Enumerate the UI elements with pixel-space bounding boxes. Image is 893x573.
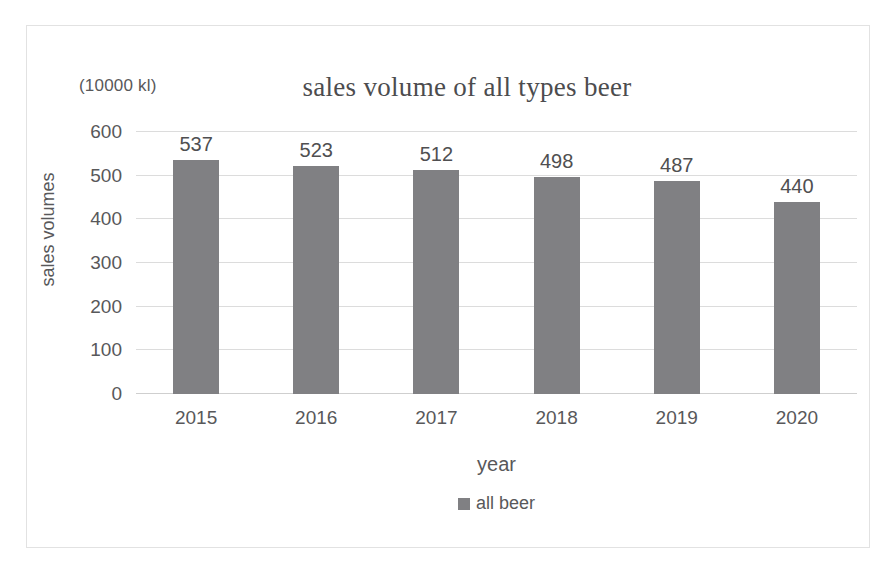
y-tick-label-0: 0 <box>62 383 122 405</box>
chart-legend: all beer <box>136 493 857 514</box>
x-axis-tick-labels: 201520162017201820192020 <box>136 407 857 435</box>
chart-figure: (10000 kl) sales volume of all types bee… <box>26 25 870 548</box>
plot-area: 537523512498487440 <box>136 132 857 394</box>
bar-value-label: 487 <box>626 154 728 177</box>
gridline-100 <box>136 349 857 350</box>
bar[interactable] <box>534 177 580 394</box>
bar[interactable] <box>293 166 339 394</box>
x-axis-title: year <box>136 453 857 476</box>
bar-group[interactable]: 512 <box>413 132 459 394</box>
y-tick-label-500: 500 <box>62 165 122 187</box>
legend-label-all-beer: all beer <box>476 493 535 514</box>
bar-group[interactable]: 440 <box>774 132 820 394</box>
x-tick-label-2017: 2017 <box>415 407 457 429</box>
y-axis-tick-labels: 6005004003002001000 <box>50 132 122 394</box>
bar-value-label: 523 <box>265 139 367 162</box>
bar[interactable] <box>413 170 459 394</box>
y-tick-label-600: 600 <box>62 121 122 143</box>
bar-group[interactable]: 523 <box>293 132 339 394</box>
bar-value-label: 512 <box>385 143 487 166</box>
y-tick-label-100: 100 <box>62 339 122 361</box>
x-tick-label-2018: 2018 <box>535 407 577 429</box>
bar-value-label: 537 <box>145 133 247 156</box>
y-tick-label-200: 200 <box>62 296 122 318</box>
bar[interactable] <box>173 160 219 394</box>
y-tick-label-300: 300 <box>62 252 122 274</box>
x-tick-label-2016: 2016 <box>295 407 337 429</box>
y-tick-label-400: 400 <box>62 208 122 230</box>
gridline-400 <box>136 218 857 219</box>
gridline-0 <box>136 393 857 394</box>
gridline-200 <box>136 306 857 307</box>
bar-value-label: 440 <box>746 175 848 198</box>
bar-group[interactable]: 498 <box>534 132 580 394</box>
bar-value-label: 498 <box>506 150 608 173</box>
x-tick-label-2020: 2020 <box>776 407 818 429</box>
chart-title: sales volume of all types beer <box>207 72 727 103</box>
y-axis-unit-label: (10000 kl) <box>79 76 157 96</box>
legend-swatch-all-beer <box>458 498 470 510</box>
gridline-300 <box>136 262 857 263</box>
x-tick-label-2019: 2019 <box>656 407 698 429</box>
bar[interactable] <box>774 202 820 394</box>
bar-group[interactable]: 537 <box>173 132 219 394</box>
bar-group[interactable]: 487 <box>654 132 700 394</box>
x-tick-label-2015: 2015 <box>175 407 217 429</box>
bar[interactable] <box>654 181 700 394</box>
